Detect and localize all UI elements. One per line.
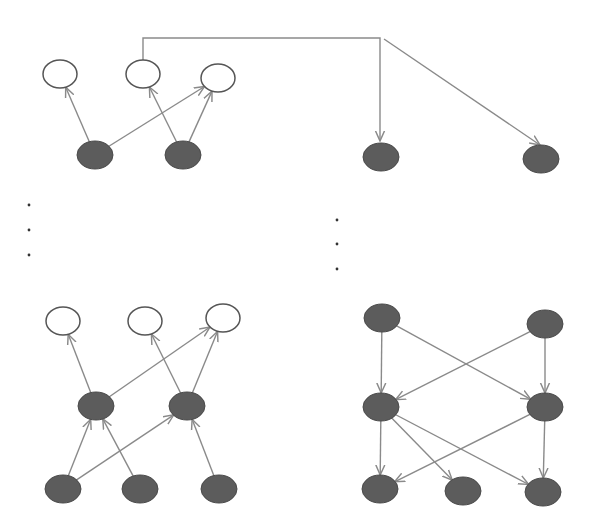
edge-bl-m2-to-bl-v3 [192,331,217,392]
edge-bl-m2-to-bl-v2 [151,334,180,393]
edge-tl-h1-to-tl-v3 [109,87,205,147]
cross-panel-connector [143,38,540,145]
edge-tl-h2-to-tl-v3 [189,91,212,142]
ellipsis-dot [28,229,31,232]
hidden-node-tr-h2 [523,145,559,173]
hidden-node-tl-h1 [77,141,113,169]
visible-node-bl-v1 [46,307,80,335]
edge-tl-h1-to-tl-v1 [66,87,90,142]
diagram-canvas [0,0,597,526]
hidden-node-br-b3 [525,478,561,506]
ellipsis-dots-layer [28,204,339,271]
hidden-node-br-m2 [527,393,563,421]
ellipsis-dot [336,268,339,271]
nodes-layer [43,60,563,506]
hidden-node-bl-b1 [45,475,81,503]
connector-to-tr-h1 [143,38,380,141]
ellipsis-dot [28,204,31,207]
panel-bottom-right [362,304,563,506]
hidden-node-tl-h2 [165,141,201,169]
edge-br-t1-to-br-m1 [381,332,382,393]
edge-bl-b1-to-bl-m2 [76,415,174,480]
hidden-node-bl-m1 [78,392,114,420]
visible-node-tl-v2 [126,60,160,88]
connector-to-tr-h2 [384,39,540,145]
edge-tl-h2-to-tl-v2 [149,87,176,142]
hidden-node-bl-m2 [169,392,205,420]
ellipsis-dot [28,254,31,257]
left-vertical-ellipsis [28,204,31,257]
visible-node-bl-v3 [206,304,240,332]
hidden-node-br-t2 [527,310,563,338]
edge-br-m1-to-br-b1 [380,421,381,475]
hidden-node-bl-b3 [201,475,237,503]
hidden-node-br-m1 [363,393,399,421]
hidden-node-br-t1 [364,304,400,332]
visible-node-bl-v2 [128,307,162,335]
edge-bl-b1-to-bl-m1 [68,419,90,475]
hidden-node-br-b1 [362,475,398,503]
panel-top-left [43,60,235,169]
ellipsis-dot [336,243,339,246]
edge-br-t2-to-br-m1 [396,331,531,399]
panel-bottom-left [45,304,240,503]
edges-layer [66,87,545,485]
hidden-node-bl-b2 [122,475,158,503]
edge-br-t1-to-br-m2 [396,326,531,400]
edge-bl-b2-to-bl-m1 [103,419,133,476]
hidden-node-br-b2 [445,477,481,505]
edge-br-m2-to-br-b3 [543,421,544,478]
visible-node-tl-v1 [43,60,77,88]
edge-bl-b3-to-bl-m2 [192,419,214,475]
visible-node-tl-v3 [201,64,235,92]
right-vertical-ellipsis [336,219,339,271]
ellipsis-dot [336,219,339,222]
panel-top-right [363,143,559,173]
hidden-node-tr-h1 [363,143,399,171]
edge-bl-m1-to-bl-v1 [68,334,91,392]
edge-br-m1-to-br-b2 [392,418,453,480]
